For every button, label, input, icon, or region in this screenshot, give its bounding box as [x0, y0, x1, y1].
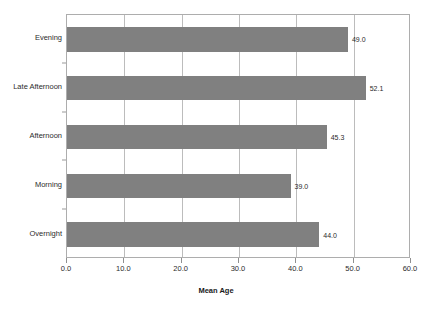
- bar-chart: EveningLate AfternoonAfternoonMorningOve…: [0, 0, 432, 312]
- x-axis-tick: [353, 258, 354, 263]
- bar-value-label: 44.0: [323, 231, 337, 238]
- y-axis-label: Morning: [35, 181, 62, 189]
- bar-row: 39.0: [67, 174, 409, 198]
- x-axis-ticks: 0.010.020.030.040.050.060.0: [66, 258, 410, 288]
- x-axis-tick-label: 60.0: [403, 265, 418, 273]
- x-axis-tick: [123, 258, 124, 263]
- bar[interactable]: [67, 174, 291, 198]
- bar-row: 49.0: [67, 27, 409, 51]
- x-axis-tick: [295, 258, 296, 263]
- x-axis-tick: [66, 258, 67, 263]
- bar-row: 52.1: [67, 76, 409, 100]
- bar[interactable]: [67, 125, 327, 149]
- x-axis-tick: [181, 258, 182, 263]
- y-axis-label: Overnight: [29, 230, 62, 238]
- x-axis-tick-label: 0.0: [61, 265, 71, 273]
- x-axis-title: Mean Age: [0, 287, 432, 295]
- bars-layer: 49.052.145.339.044.0: [67, 15, 409, 257]
- x-axis-tick-label: 30.0: [231, 265, 246, 273]
- bar-value-label: 39.0: [295, 182, 309, 189]
- bar-value-label: 49.0: [352, 36, 366, 43]
- bar-row: 45.3: [67, 125, 409, 149]
- bar-value-label: 52.1: [370, 85, 384, 92]
- y-axis-label: Evening: [35, 35, 62, 43]
- x-axis-tick-label: 50.0: [345, 265, 360, 273]
- x-axis-tick-label: 10.0: [116, 265, 131, 273]
- y-axis-label: Late Afternoon: [13, 83, 62, 91]
- x-axis-tick: [238, 258, 239, 263]
- bar-row: 44.0: [67, 222, 409, 246]
- bar[interactable]: [67, 222, 319, 246]
- x-axis-tick-label: 20.0: [173, 265, 188, 273]
- bar[interactable]: [67, 76, 366, 100]
- y-axis-label: Afternoon: [29, 132, 62, 140]
- x-axis-tick-label: 40.0: [288, 265, 303, 273]
- y-axis-category-labels: EveningLate AfternoonAfternoonMorningOve…: [0, 14, 62, 258]
- bar-value-label: 45.3: [331, 133, 345, 140]
- bar[interactable]: [67, 27, 348, 51]
- plot-area: 49.052.145.339.044.0: [66, 14, 410, 258]
- x-axis-tick: [410, 258, 411, 263]
